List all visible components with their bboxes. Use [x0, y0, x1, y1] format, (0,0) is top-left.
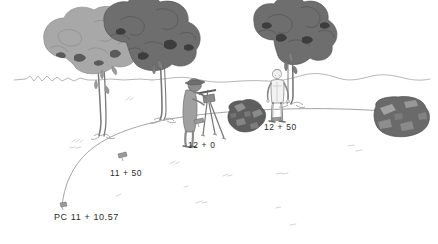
label-station-12-0: 12 + 0 — [188, 140, 215, 150]
surveying-illustration — [0, 0, 438, 244]
label-station-12-50: 12 + 50 — [264, 122, 297, 132]
marker-1250 — [272, 117, 281, 121]
label-pc-station: PC 11 + 10.57 — [54, 212, 119, 222]
label-station-11-50: 11 + 50 — [110, 168, 142, 178]
boulder-right — [374, 97, 429, 137]
